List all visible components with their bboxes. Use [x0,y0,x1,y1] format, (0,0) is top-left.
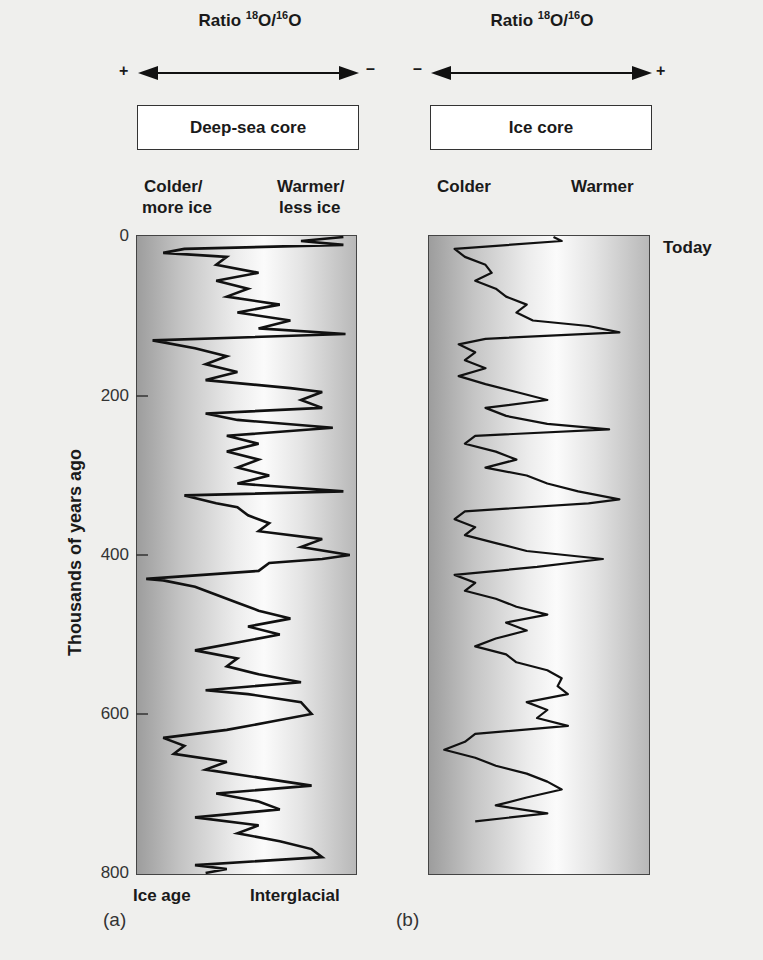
ratio-prefix: Ratio [199,11,246,30]
ratio-suffix: O [288,11,301,30]
ratio-sup-16: 16 [276,9,288,21]
ratio-sup-16: 16 [568,9,580,21]
y-tick-400: 400 [79,545,129,565]
ratio-suffix: O [580,11,593,30]
interglacial-label: Interglacial [250,885,340,906]
ice-core-plot [428,235,650,875]
deep-sea-core-label-box: Deep-sea core [137,105,359,150]
panel-a-letter: (a) [103,909,126,931]
ratio-mid: O/ [258,11,276,30]
ratio-sup-18: 18 [538,9,550,21]
panel-a-colder-label: Colder/ more ice [142,176,212,218]
y-tick-0: 0 [79,226,129,246]
panel-b-plus-sign: + [656,62,665,80]
ratio-sup-18: 18 [246,9,258,21]
y-tick-800: 800 [79,863,129,883]
ratio-mid: O/ [550,11,568,30]
panel-b-minus-sign: – [413,60,422,78]
panel-a-ratio-title: Ratio 18O/16O [140,9,360,31]
today-label: Today [663,237,712,258]
colder-line2: more ice [142,197,212,218]
panel-b-ratio-title: Ratio 18O/16O [432,9,652,31]
panel-a-warmer-label: Warmer/ less ice [277,176,344,218]
ice-core-label-box: Ice core [430,105,652,150]
ice-age-label: Ice age [133,885,191,906]
warmer-line2: less ice [279,197,344,218]
ratio-prefix: Ratio [491,11,538,30]
panel-b-warmer-label: Warmer [571,176,634,197]
warmer-line1: Warmer/ [277,176,344,197]
panel-a-plus-sign: + [119,62,128,80]
panel-a-minus-sign: – [366,60,375,78]
panel-b-letter: (b) [396,909,419,931]
y-tick-200: 200 [79,386,129,406]
colder-line1: Colder/ [144,176,212,197]
deep-sea-core-plot [136,235,357,875]
y-tick-600: 600 [79,704,129,724]
panel-b-colder-label: Colder [437,176,491,197]
